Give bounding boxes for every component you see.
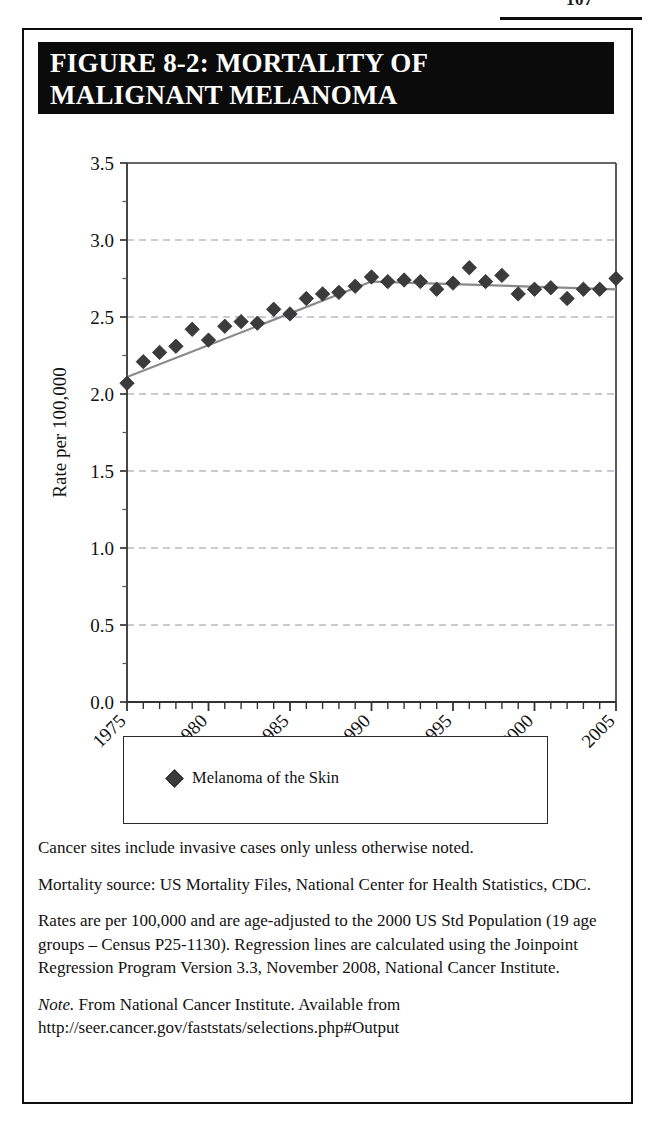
- y-tick-label-3: 3.0: [90, 230, 114, 251]
- y-axis-title: Rate per 100,000: [49, 367, 70, 497]
- y-tick-label-0: 0.0: [90, 692, 114, 713]
- note-source-text: From National Cancer Institute. Availabl…: [38, 995, 400, 1038]
- y-tick-label-2.5: 2.5: [90, 307, 114, 328]
- chart-area: 0.00.51.01.52.02.53.03.51975198019851990…: [32, 118, 627, 758]
- x-tick-label-2005: 2005: [577, 710, 619, 752]
- data-point-1997: [478, 274, 492, 288]
- data-point-1999: [511, 287, 525, 301]
- data-point-2003: [576, 282, 590, 296]
- data-point-1980: [201, 333, 215, 347]
- data-point-1979: [185, 322, 199, 336]
- legend-item-label: Melanoma of the Skin: [192, 769, 339, 787]
- figure-title-line-1: FIGURE 8-2: MORTALITY OF: [50, 47, 602, 79]
- page-header: 107: [0, 0, 655, 26]
- data-point-1976: [136, 354, 150, 368]
- figure-title-line-2: MALIGNANT MELANOMA: [50, 79, 602, 111]
- data-point-1989: [348, 279, 362, 293]
- note-label-italic: Note.: [38, 995, 74, 1014]
- page-number: 107: [566, 0, 593, 10]
- mortality-scatter-chart: 0.00.51.01.52.02.53.03.51975198019851990…: [32, 118, 627, 758]
- data-point-1996: [462, 261, 476, 275]
- figure-notes: Cancer sites include invasive cases only…: [38, 836, 616, 1053]
- data-point-2001: [544, 281, 558, 295]
- note-source-attribution: Note. From National Cancer Institute. Av…: [38, 993, 616, 1040]
- data-point-1991: [381, 274, 395, 288]
- diamond-marker-icon: [165, 769, 183, 787]
- y-tick-label-1: 1.0: [90, 538, 114, 559]
- note-cancer-sites: Cancer sites include invasive cases only…: [38, 836, 616, 860]
- legend-item-melanoma: Melanoma of the Skin: [168, 769, 339, 787]
- y-tick-label-0.5: 0.5: [90, 615, 114, 636]
- data-point-1977: [152, 345, 166, 359]
- figure-container: FIGURE 8-2: MORTALITY OF MALIGNANT MELAN…: [22, 28, 633, 1104]
- y-tick-label-1.5: 1.5: [90, 461, 114, 482]
- data-point-1978: [169, 339, 183, 353]
- data-point-2005: [609, 271, 623, 285]
- data-point-1981: [218, 319, 232, 333]
- data-point-2002: [560, 291, 574, 305]
- data-point-1993: [413, 274, 427, 288]
- header-rule: [500, 17, 642, 20]
- data-point-1998: [495, 268, 509, 282]
- chart-legend: Melanoma of the Skin: [123, 736, 548, 824]
- figure-title-bar: FIGURE 8-2: MORTALITY OF MALIGNANT MELAN…: [38, 42, 614, 114]
- data-point-1986: [299, 291, 313, 305]
- data-point-2000: [527, 282, 541, 296]
- note-mortality-source: Mortality source: US Mortality Files, Na…: [38, 873, 616, 897]
- data-point-1995: [446, 276, 460, 290]
- data-point-1992: [397, 273, 411, 287]
- data-point-1984: [267, 302, 281, 316]
- data-point-2004: [593, 282, 607, 296]
- y-tick-label-3.5: 3.5: [90, 153, 114, 174]
- data-point-1975: [120, 376, 134, 390]
- y-tick-label-2: 2.0: [90, 384, 114, 405]
- data-point-1985: [283, 307, 297, 321]
- note-rates-methodology: Rates are per 100,000 and are age-adjust…: [38, 909, 616, 980]
